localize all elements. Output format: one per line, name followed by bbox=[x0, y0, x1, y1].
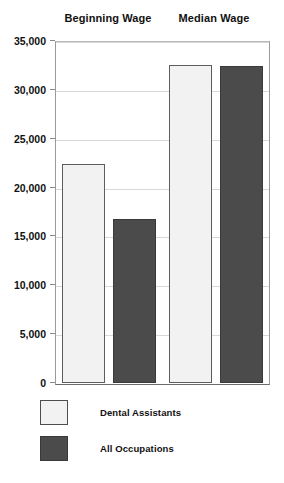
y-axis-tick-label: 35,000 bbox=[14, 34, 46, 48]
y-axis-tick-label: 30,000 bbox=[14, 83, 46, 97]
y-axis-tick: 15,000 bbox=[0, 229, 55, 243]
category-label-beginning-wage: Beginning Wage bbox=[54, 12, 162, 24]
y-axis-tick-label: 15,000 bbox=[14, 229, 46, 243]
y-axis-tick: 25,000 bbox=[0, 132, 55, 146]
y-axis-tick: 20,000 bbox=[0, 181, 55, 195]
y-axis-tick-label: 5,000 bbox=[20, 327, 46, 341]
y-axis-tick: 5,000 bbox=[0, 327, 55, 341]
light-swatch-icon bbox=[40, 400, 68, 425]
y-axis-tick: 10,000 bbox=[0, 278, 55, 292]
y-axis-tick-label: 20,000 bbox=[14, 181, 46, 195]
bar bbox=[169, 65, 212, 383]
y-axis-tick-label: 10,000 bbox=[14, 278, 46, 292]
legend: Dental Assistants All Occupations bbox=[0, 396, 284, 466]
y-axis-tick: 35,000 bbox=[0, 34, 55, 48]
bar bbox=[113, 219, 156, 383]
wage-comparison-chart: Beginning Wage Median Wage 05,00010,0001… bbox=[0, 0, 284, 483]
bars-layer bbox=[56, 41, 269, 384]
y-axis-tick-label: 0 bbox=[40, 376, 46, 390]
gridline bbox=[56, 384, 269, 385]
dark-swatch-icon bbox=[40, 436, 68, 461]
y-axis-tick-label: 25,000 bbox=[14, 132, 46, 146]
bar bbox=[220, 66, 263, 383]
legend-label-all-occupations: All Occupations bbox=[100, 443, 174, 454]
category-labels: Beginning Wage Median Wage bbox=[0, 12, 284, 30]
category-label-median-wage: Median Wage bbox=[160, 12, 268, 24]
bar bbox=[62, 164, 105, 383]
y-axis-tick: 30,000 bbox=[0, 83, 55, 97]
y-axis: 05,00010,00015,00020,00025,00030,00035,0… bbox=[0, 41, 55, 383]
y-axis-tick: 0 bbox=[0, 376, 55, 390]
legend-label-dental-assistants: Dental Assistants bbox=[100, 407, 181, 418]
